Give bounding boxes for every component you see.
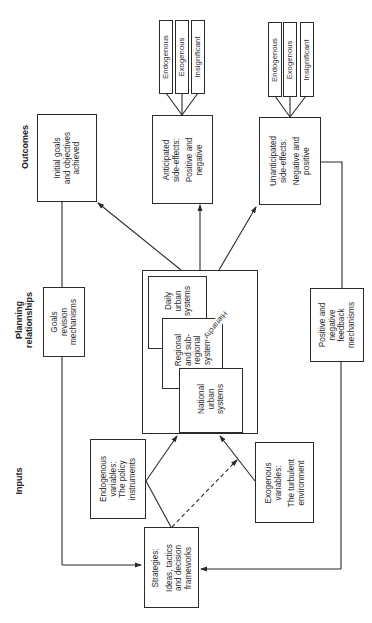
planning-label-line1: Planning (14, 292, 24, 348)
text-line: regional (193, 334, 203, 366)
unanticipated-endogenous-box: Endogenous (268, 22, 282, 97)
text-line: environment (296, 458, 306, 506)
text-line: Negative and (292, 136, 302, 186)
endogenous-text: Endogenous variables: The policy instrum… (99, 456, 137, 502)
anticipated-exogenous-box: Exogenous (175, 20, 189, 94)
goals-revision-box: Goals revision mechanisms (43, 287, 85, 357)
outcomes-label: Outcomes (20, 125, 30, 169)
unanticipated-text: Unanticipated side-effects: Negative and… (269, 136, 311, 186)
text-line: and decision (174, 544, 184, 592)
anticipated-insignificant-box: Insignificant (191, 20, 205, 94)
text-line: systems (182, 286, 192, 316)
feedback-mechanisms-box: Positive and negative feedback mechanism… (310, 288, 364, 362)
endogenous-variables-box: Endogenous variables: The policy instrum… (90, 439, 146, 519)
text-line: and objectives (62, 132, 72, 184)
anticipated-side-effects-box: Anticipated side-effects: Positive and n… (152, 115, 213, 204)
text-line: The turbulent (287, 458, 297, 506)
text-line: Endogenous (99, 456, 109, 502)
text-line: Ideas, tactics (164, 544, 174, 592)
anticipated-text: Anticipated side-effects: Positive and n… (161, 137, 203, 182)
feedback-text: Positive and negative feedback mechanism… (318, 302, 356, 348)
text-line: Initial goals (53, 132, 63, 184)
text-line: side-effects: (278, 136, 288, 186)
text-line: National (197, 384, 207, 414)
text-line: urban (173, 286, 183, 316)
unanticipated-insignificant-box: Insignificant (300, 22, 314, 97)
unanticipated-side-effects-box: Unanticipated side-effects: Negative and… (259, 117, 321, 205)
text-line: feedback (337, 302, 347, 348)
spacer (181, 137, 185, 182)
text-line: mechanisms (347, 302, 357, 348)
strategies-box: Strategies: Ideas, tactics and decision … (144, 527, 199, 608)
text-line: Goals (50, 299, 60, 345)
text-line: Anticipated (161, 137, 171, 182)
text-line: Daily (163, 286, 173, 316)
goals-revision-text: Goals revision mechanisms (50, 299, 79, 345)
initial-goals-text: Initial goals and objectives achieved (53, 132, 82, 184)
text-line: Strategies: (150, 544, 160, 592)
text-line: Insignificant (302, 39, 312, 80)
strategies-text: Strategies: Ideas, tactics and decision … (150, 544, 192, 592)
text-line: frameworks (183, 544, 193, 592)
unanticipated-exogenous-box: Exogenous (283, 22, 297, 97)
national-text: National urban systems (197, 384, 226, 414)
text-line: Endogenous (270, 38, 280, 82)
anticipated-endogenous-box: Endogenous (159, 20, 173, 94)
text-line: mechanisms (69, 299, 79, 345)
spacer (160, 544, 164, 592)
text-line: Endogenous (161, 35, 171, 79)
text-line: negative (327, 302, 337, 348)
national-urban-systems-box: National urban systems (179, 368, 243, 433)
planning-label-line2: relationships (24, 292, 34, 348)
text-line: instruments (128, 456, 138, 502)
text-line: Exogenous (285, 40, 295, 79)
text-line: urban (206, 384, 216, 414)
exogenous-text: Exogenous variables: The turbulent envir… (263, 458, 305, 506)
text-line: side-effects: (171, 137, 181, 182)
section-label-outcomes: Outcomes (20, 125, 30, 169)
text-line: variables: (273, 458, 283, 506)
text-line: and sub- (183, 334, 193, 366)
text-line: Exogenous (177, 37, 187, 76)
text-line: Insignificant (193, 36, 203, 77)
section-label-inputs: Inputs (14, 468, 24, 495)
text-line: Unanticipated (269, 136, 279, 186)
text-line: variables: (108, 456, 118, 502)
text-line: positive (302, 136, 312, 186)
text-line: Exogenous (263, 458, 273, 506)
initial-goals-box: Initial goals and objectives achieved (37, 114, 97, 202)
text-line: revision (59, 299, 69, 345)
text-line: achieved (72, 132, 82, 184)
text-line: Regional (173, 334, 183, 366)
text-line: Positive and (185, 137, 195, 182)
inputs-label: Inputs (14, 468, 24, 495)
text-line: systems (216, 384, 226, 414)
daily-text: Daily urban systems (163, 286, 192, 316)
text-line: The policy (118, 456, 128, 502)
spacer (283, 458, 287, 506)
text-line: Positive and (318, 302, 328, 348)
section-label-planning: Planning relationships (14, 292, 34, 348)
exogenous-variables-box: Exogenous variables: The turbulent envir… (255, 442, 314, 523)
text-line: negative (194, 137, 204, 182)
